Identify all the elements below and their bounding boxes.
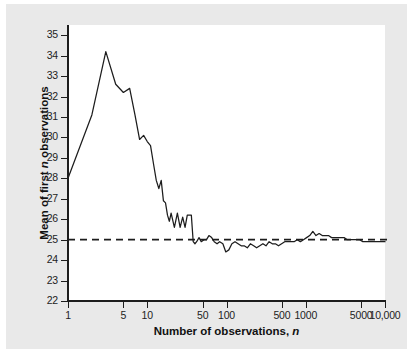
y-axis-title-italic-n: n [38,161,50,168]
y-axis-title: Mean of first n observations [38,48,50,278]
x-axis-title-text: Number of observations, [154,325,289,337]
x-axis-title: Number of observations, n [68,325,385,337]
y-axis-title-part2: observations [38,86,50,158]
running-mean-line [68,52,385,252]
y-axis-title-part1: Mean of first [38,171,50,239]
x-axis-title-italic-n: n [292,325,299,337]
figure-container: 2223242526272829303132333435 15105010050… [0,0,413,357]
series-layer [0,0,413,357]
